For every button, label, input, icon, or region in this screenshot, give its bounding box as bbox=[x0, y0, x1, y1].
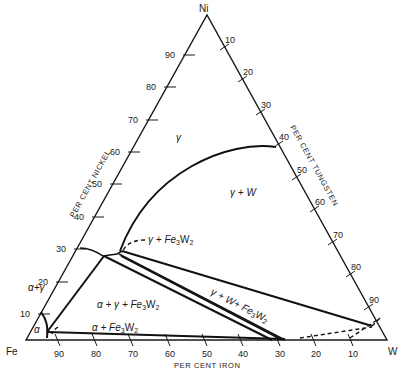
ternary-diagram: 10 20 30 40 50 60 70 80 90 PER CENT NICK… bbox=[0, 0, 402, 375]
svg-text:10: 10 bbox=[20, 309, 30, 319]
boundary-dashed-w-1 bbox=[300, 327, 372, 338]
svg-text:90: 90 bbox=[54, 349, 64, 359]
svg-text:30: 30 bbox=[261, 100, 271, 110]
boundary-gamma-gammaW bbox=[120, 146, 276, 251]
tungsten-axis-labels: 10 20 30 40 50 60 70 80 90 bbox=[225, 35, 379, 305]
label-alpha-fe3w2: α + Fe3W2 bbox=[92, 322, 138, 334]
boundary-gamma-fe3w2-b bbox=[121, 256, 282, 340]
boundary-alpha-gamma-left bbox=[47, 256, 104, 332]
svg-text:30: 30 bbox=[56, 244, 66, 254]
boundary-alpha-fe3w2 bbox=[47, 332, 285, 339]
boundary-gamma-fe3w2-a bbox=[119, 254, 285, 340]
vertex-fe: Fe bbox=[6, 346, 18, 357]
label-gamma-w: γ + W bbox=[230, 187, 257, 198]
svg-text:80: 80 bbox=[146, 82, 156, 92]
nickel-axis-labels: 10 20 30 40 50 60 70 80 90 bbox=[20, 50, 175, 319]
label-alpha-gamma: α+γ bbox=[28, 282, 46, 293]
svg-text:20: 20 bbox=[311, 349, 321, 359]
svg-text:20: 20 bbox=[243, 67, 253, 77]
svg-text:50: 50 bbox=[297, 165, 307, 175]
svg-text:70: 70 bbox=[128, 349, 138, 359]
boundary-dashed-w-2 bbox=[372, 316, 382, 326]
svg-text:70: 70 bbox=[128, 115, 138, 125]
label-gamma: γ bbox=[176, 132, 182, 143]
svg-text:60: 60 bbox=[315, 197, 325, 207]
svg-text:80: 80 bbox=[351, 262, 361, 272]
svg-text:50: 50 bbox=[202, 349, 212, 359]
svg-text:90: 90 bbox=[165, 50, 175, 60]
boundary-gamma-alpha-gamma bbox=[80, 248, 122, 256]
label-alpha: α bbox=[34, 324, 40, 335]
label-alpha-gamma-fe3w2: α + γ + Fe3W2 bbox=[97, 299, 160, 311]
ternary-triangle bbox=[26, 15, 387, 340]
boundary-alpha bbox=[41, 312, 47, 338]
svg-text:30: 30 bbox=[275, 349, 285, 359]
svg-text:70: 70 bbox=[333, 230, 343, 240]
svg-text:10: 10 bbox=[348, 349, 358, 359]
nickel-axis-title: PER CENT NICKEL bbox=[68, 148, 113, 219]
svg-text:80: 80 bbox=[91, 349, 101, 359]
svg-text:10: 10 bbox=[225, 35, 235, 45]
iron-axis-title: PER CENT IRON bbox=[174, 361, 240, 370]
vertex-ni: Ni bbox=[199, 3, 208, 14]
svg-text:90: 90 bbox=[369, 295, 379, 305]
svg-text:60: 60 bbox=[165, 349, 175, 359]
label-gamma-fe3w2: γ + Fe3W2 bbox=[148, 234, 193, 246]
vertex-w: W bbox=[388, 346, 398, 357]
iron-axis-labels: 90 80 70 60 50 40 30 20 10 bbox=[54, 349, 358, 359]
svg-text:40: 40 bbox=[279, 132, 289, 142]
svg-text:40: 40 bbox=[238, 349, 248, 359]
